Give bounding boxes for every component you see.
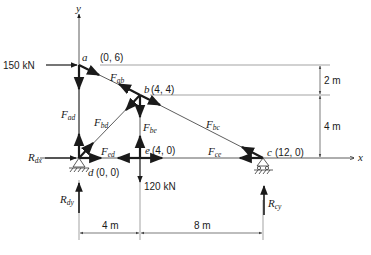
force-Fab-label: Fab (109, 71, 124, 85)
node-d-label: d (88, 166, 94, 178)
force-Fbd-label: Fbd (93, 116, 108, 130)
reaction-Rcy-label: Rcy (267, 197, 282, 211)
node-d-coord: (0, 0) (96, 167, 119, 178)
load-150kN-label: 150 kN (3, 60, 35, 71)
reaction-Rdy-label: Rdy (59, 193, 74, 207)
dim-4m: 4 m (324, 121, 341, 132)
node-b-label: b (144, 83, 150, 95)
dim-4m-horizontal: 4 m (102, 220, 119, 231)
force-Fce-label: Fce (207, 145, 222, 159)
reaction-Rdx-label: Rdx (27, 151, 42, 165)
node-c-coord: (12, 0) (275, 147, 304, 158)
node-b-coord: (4, 4) (151, 84, 174, 95)
load-120kN-label: 120 kN (144, 181, 176, 192)
y-axis-label: y (75, 2, 81, 14)
force-Fbc-label: Fbc (205, 118, 220, 132)
truss-diagram: y x 2 m 4 m 4 m 8 m (0, 0, 371, 255)
node-c-label: c (267, 146, 272, 158)
x-axis-label: x (357, 151, 363, 163)
node-e-coord: (4, 0) (152, 145, 175, 156)
dim-2m: 2 m (324, 75, 341, 86)
node-a-label: a (82, 51, 88, 63)
roller-support-c (254, 158, 273, 174)
node-e-label: e (145, 144, 150, 156)
dim-8m-horizontal: 8 m (194, 220, 211, 231)
force-Fad-label: Fad (60, 108, 75, 122)
force-Fed-label: Fed (100, 145, 115, 159)
node-a-coord: (0, 6) (100, 52, 123, 63)
force-Fbe-label: Fbe (142, 121, 157, 135)
pin-support-d (69, 158, 89, 172)
